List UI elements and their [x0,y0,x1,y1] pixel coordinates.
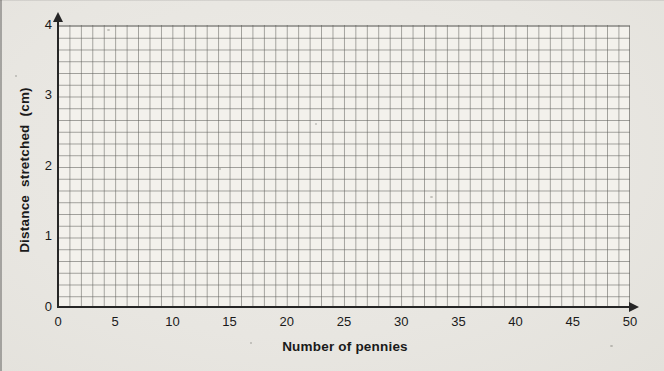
x-axis-title: Number of pennies [235,339,455,354]
paper-speck [107,29,110,31]
x-axis-line [57,306,630,308]
scanned-graph-page: 4 3 2 1 0 0 5 10 15 20 25 30 35 40 45 50… [0,0,664,371]
paper-speck [610,345,613,347]
y-axis-arrow-icon [53,12,63,22]
paper-speck [219,168,221,170]
x-tick-label: 5 [100,314,130,329]
y-tick-label: 1 [30,229,52,243]
paper-speck [250,342,252,344]
paper-speck [15,75,17,77]
y-tick-label: 3 [30,88,52,102]
plot-grid [58,25,630,307]
x-tick-label: 20 [272,314,302,329]
x-tick-label: 15 [215,314,245,329]
x-axis-arrow-icon [629,302,639,312]
x-tick-label: 25 [329,314,359,329]
x-tick-label: 10 [157,314,187,329]
y-axis-line [57,20,59,308]
scan-edge [0,0,2,371]
y-axis-title: Distance stretched (cm) [17,60,33,280]
x-tick-label: 35 [443,314,473,329]
x-tick-label: 40 [501,314,531,329]
paper-speck [315,123,317,125]
y-tick-label: 2 [30,159,52,173]
x-tick-label: 45 [558,314,588,329]
x-tick-label: 50 [615,314,645,329]
x-tick-label: 30 [386,314,416,329]
x-tick-label: 0 [43,314,73,329]
y-tick-label: 4 [30,18,52,32]
paper-speck [430,196,433,198]
scan-edge [0,0,664,1]
y-tick-label: 0 [30,300,52,314]
